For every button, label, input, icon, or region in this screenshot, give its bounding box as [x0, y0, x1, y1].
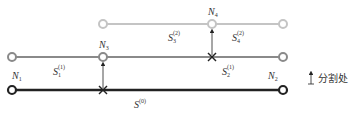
node-level1-right	[279, 53, 287, 61]
label-N2: N2	[267, 70, 278, 82]
label-N1: N1	[11, 70, 22, 82]
label-S3-2: S3(2)	[168, 30, 180, 44]
node-N2	[279, 86, 287, 94]
node-level2-right	[279, 20, 287, 28]
label-S1-1: S1(1)	[53, 64, 65, 78]
legend-label: 分割处	[318, 72, 348, 84]
legend: 分割处	[308, 72, 348, 84]
node-level2-left	[99, 20, 107, 28]
label-S2-1: S2(1)	[222, 64, 234, 78]
label-S-0: S(0)	[134, 98, 146, 110]
label-N4: N4	[207, 6, 218, 18]
label-N3: N3	[98, 39, 109, 51]
node-N4	[208, 20, 216, 28]
split-diagram: N1 N2 N3 N4 S1(1) S2(1) S3(2) S4(2) S(0)…	[0, 0, 358, 121]
split-arrow-icon	[308, 73, 314, 84]
node-N3	[99, 53, 107, 61]
label-S4-2: S4(2)	[232, 30, 244, 44]
node-N1	[8, 86, 16, 94]
node-level1-left	[8, 53, 16, 61]
